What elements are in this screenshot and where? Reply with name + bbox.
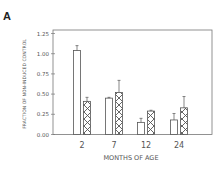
- bar-hatched-24: [181, 108, 188, 135]
- y-tick-label: 0.25: [37, 111, 50, 117]
- bar-chart: A FRACTION OF NON-INDUCED CONTROL 0.000.…: [0, 0, 221, 171]
- y-tick-label: 1.00: [37, 51, 50, 57]
- x-tick-label: 12: [141, 141, 151, 150]
- x-tick-label: 24: [174, 141, 184, 150]
- bar-hatched-7: [116, 92, 123, 134]
- bar-open-7: [106, 98, 113, 134]
- x-tick-label: 7: [111, 141, 116, 150]
- bar-open-12: [138, 122, 145, 134]
- x-axis-title: MONTHS OF AGE: [103, 154, 158, 162]
- bars: [74, 46, 188, 135]
- y-tick-label: 1.25: [37, 31, 50, 37]
- bar-open-24: [171, 120, 178, 135]
- y-axis: 0.000.250.500.751.001.25: [37, 31, 55, 138]
- y-axis-title: FRACTION OF NON-INDUCED CONTROL: [22, 39, 27, 129]
- y-tick-label: 0.50: [37, 91, 50, 97]
- bar-hatched-12: [148, 111, 155, 134]
- y-tick-label: 0.75: [37, 71, 50, 77]
- y-axis-title-group: FRACTION OF NON-INDUCED CONTROL: [22, 39, 27, 129]
- bar-hatched-2: [84, 101, 91, 134]
- x-tick-label: 2: [79, 141, 84, 150]
- panel-label: A: [3, 10, 11, 22]
- x-axis: 271224: [79, 141, 184, 150]
- y-tick-label: 0.00: [37, 132, 50, 138]
- bar-open-2: [74, 50, 81, 134]
